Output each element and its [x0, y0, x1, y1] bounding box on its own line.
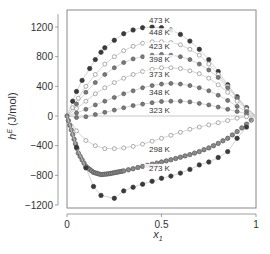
- data-point: [112, 108, 116, 112]
- chart-canvas: −1200−800−40004008001200 00.51 473 K448 …: [0, 0, 270, 254]
- data-point: [75, 107, 79, 111]
- data-point: [207, 62, 211, 66]
- data-point: [197, 125, 201, 129]
- data-point: [178, 82, 182, 86]
- data-point: [140, 182, 144, 186]
- y-axis-unit: (J/mol): [6, 92, 18, 129]
- data-point: [244, 125, 248, 129]
- x-tick-label: 1: [253, 219, 259, 230]
- data-point: [188, 100, 192, 104]
- data-point: [93, 57, 97, 61]
- data-point: [160, 66, 164, 70]
- data-point: [197, 62, 201, 66]
- data-point: [178, 32, 182, 36]
- data-point: [188, 167, 192, 171]
- data-point: [188, 69, 192, 73]
- data-point: [216, 93, 220, 97]
- y-tick-label: 1200: [31, 22, 54, 33]
- series-label: 323 K: [149, 106, 171, 115]
- series-label: 448 K: [149, 28, 171, 37]
- data-point: [169, 81, 173, 85]
- data-point: [84, 107, 88, 111]
- data-point: [216, 121, 220, 125]
- data-point: [174, 156, 178, 160]
- data-point: [112, 81, 116, 85]
- data-point: [112, 196, 116, 200]
- data-point: [197, 86, 201, 90]
- data-point: [207, 89, 211, 93]
- data-point: [88, 66, 92, 70]
- data-point: [235, 136, 239, 140]
- data-point: [80, 78, 84, 82]
- series-273k: [67, 116, 256, 201]
- data-point: [197, 53, 201, 57]
- data-point: [131, 104, 135, 108]
- data-point: [226, 136, 230, 140]
- data-point: [178, 67, 182, 71]
- data-point: [112, 147, 116, 151]
- data-point: [99, 50, 103, 54]
- data-point: [207, 103, 211, 107]
- data-point: [131, 144, 135, 148]
- data-point: [197, 163, 201, 167]
- data-point: [178, 155, 182, 159]
- data-point: [126, 168, 130, 172]
- data-point: [122, 61, 126, 65]
- data-point: [221, 139, 225, 143]
- series-label: 473 K: [149, 16, 171, 25]
- x-axis-subscript: 1: [159, 235, 163, 242]
- data-point: [192, 151, 196, 155]
- x-tick-label: 0: [64, 219, 70, 230]
- series-label: 273 K: [149, 164, 171, 173]
- data-point: [197, 101, 201, 105]
- data-point: [226, 90, 230, 94]
- data-point: [150, 101, 154, 105]
- data-point: [188, 39, 192, 43]
- data-point: [178, 130, 182, 134]
- data-point: [103, 46, 107, 50]
- data-point: [216, 141, 220, 145]
- y-axis: −1200−800−40004008001200: [25, 14, 58, 210]
- series-label: 398 K: [149, 55, 171, 64]
- data-point: [84, 90, 88, 94]
- data-point: [93, 113, 97, 117]
- data-point: [207, 160, 211, 164]
- data-point: [122, 169, 126, 173]
- x-axis-title: x1: [152, 228, 163, 242]
- series-label: 373 K: [149, 70, 171, 79]
- data-point: [159, 176, 163, 180]
- data-point: [178, 43, 182, 47]
- data-point: [141, 86, 145, 90]
- data-point: [188, 152, 192, 156]
- data-point: [169, 174, 173, 178]
- data-point: [207, 76, 211, 80]
- data-point: [207, 68, 211, 72]
- data-point: [240, 126, 244, 130]
- data-point: [235, 110, 239, 114]
- data-point: [235, 116, 239, 120]
- data-point: [84, 84, 88, 88]
- data-point: [178, 99, 182, 103]
- data-point: [169, 133, 173, 137]
- data-point: [169, 158, 173, 162]
- y-tick-label: −400: [30, 140, 53, 151]
- data-point: [207, 123, 211, 127]
- data-point: [103, 73, 107, 77]
- data-point: [112, 66, 116, 70]
- data-point: [75, 102, 79, 106]
- data-point: [131, 185, 135, 189]
- data-point: [197, 149, 201, 153]
- data-point: [141, 41, 145, 45]
- data-point: [160, 136, 164, 140]
- data-point: [131, 28, 135, 32]
- data-point: [84, 166, 88, 170]
- data-point: [216, 155, 220, 159]
- data-point: [226, 86, 230, 90]
- data-point: [150, 84, 154, 88]
- data-point: [103, 147, 107, 151]
- data-point: [74, 145, 78, 149]
- data-point: [164, 159, 168, 163]
- y-tick-label: 400: [36, 81, 53, 92]
- data-point: [103, 86, 107, 90]
- data-point: [93, 81, 97, 85]
